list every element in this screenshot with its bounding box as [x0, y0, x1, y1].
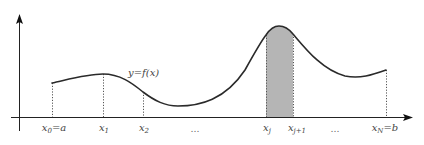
label-x2: x2: [139, 123, 149, 135]
label-x1: x1: [99, 123, 109, 135]
label-xj: xj: [263, 123, 271, 135]
shaded-strip: [266, 26, 293, 117]
label-xN-suffix: =b: [383, 122, 398, 133]
function-label: y=f(x): [128, 68, 159, 78]
riemann-sum-diagram: y=f(x) x0=a x1 x2 … xj xj+1 … xN=b: [0, 0, 424, 145]
function-curve: [52, 26, 386, 106]
label-x1-sub: 1: [105, 127, 109, 135]
label-ellipsis-1: …: [191, 125, 200, 134]
partition-lines: [53, 34, 387, 117]
label-xN: xN=b: [372, 123, 399, 135]
label-x2-sub: 2: [145, 127, 149, 135]
label-xj-sub: j: [269, 127, 271, 135]
label-xj1-sub: j+1: [294, 127, 307, 135]
label-x0-suffix: =a: [52, 122, 66, 133]
label-x0: x0=a: [42, 123, 66, 135]
label-ellipsis-2: …: [331, 125, 340, 134]
label-xj1: xj+1: [288, 123, 306, 135]
